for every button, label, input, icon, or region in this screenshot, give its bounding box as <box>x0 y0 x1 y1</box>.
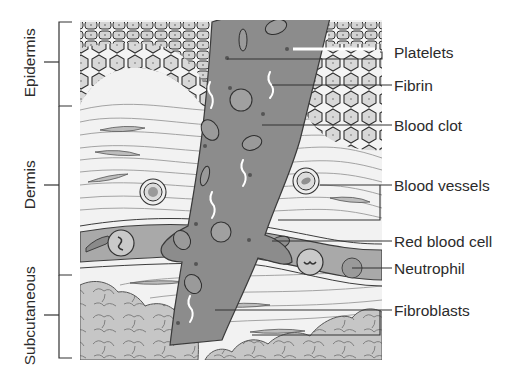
label-neutrophil: Neutrophil <box>394 261 465 277</box>
label-blood-vessels: Blood vessels <box>394 178 490 194</box>
tissue-block <box>80 15 382 360</box>
label-platelets: Platelets <box>394 45 453 61</box>
label-fibrin: Fibrin <box>394 78 433 94</box>
label-fibroblasts: Fibroblasts <box>394 303 470 319</box>
label-red-blood-cell: Red blood cell <box>394 234 492 250</box>
label-epidermis: Epidermis <box>22 23 38 103</box>
label-dermis: Dermis <box>22 152 38 218</box>
label-blood-clot: Blood clot <box>394 118 462 134</box>
layer-brackets <box>44 22 72 358</box>
small-blood-vessel-left <box>140 179 166 205</box>
small-blood-vessel-right <box>293 168 319 194</box>
label-subcutaneous: Subcutaneous <box>22 263 38 369</box>
wound-healing-diagram: Epidermis Dermis Subcutaneous Platelets … <box>0 0 516 381</box>
